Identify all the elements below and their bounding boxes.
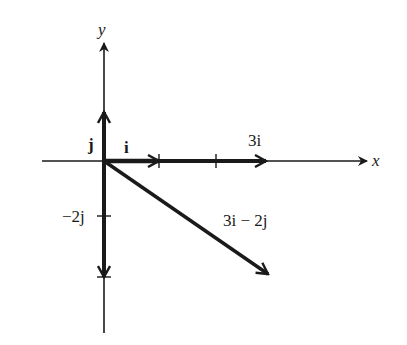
label-j: j: [87, 135, 94, 154]
vector-diagram: y x j i 3i −2j 3i − 2j: [0, 0, 407, 345]
y-axis-label: y: [96, 20, 106, 39]
label-3i: 3i: [248, 131, 262, 150]
label-3i-minus-2j: 3i − 2j: [223, 211, 268, 230]
label-i: i: [124, 138, 129, 157]
label-neg-2j: −2j: [62, 207, 85, 226]
x-axis-label: x: [371, 151, 380, 170]
